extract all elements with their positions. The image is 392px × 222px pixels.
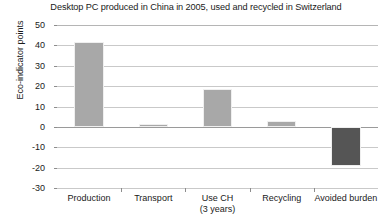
gridline [57, 168, 378, 169]
chart-title: Desktop PC produced in China in 2005, us… [0, 1, 392, 13]
y-tick-label: -10 [5, 142, 45, 152]
y-tick-mark [54, 168, 57, 169]
x-tick-mark [185, 188, 186, 192]
gridline [57, 86, 378, 87]
x-tick-label-text: Transport [134, 193, 172, 203]
y-tick-label: 50 [5, 20, 45, 30]
gridline [57, 25, 378, 26]
bar [139, 124, 169, 126]
y-tick-label: 10 [5, 102, 45, 112]
y-tick-label: 30 [5, 61, 45, 71]
zero-line [57, 127, 378, 128]
y-tick-label: -20 [5, 163, 45, 173]
y-tick-label: 40 [5, 40, 45, 50]
y-tick-mark [54, 147, 57, 148]
y-tick-mark [54, 25, 57, 26]
y-tick-mark [54, 45, 57, 46]
gridline [57, 147, 378, 148]
gridline [57, 66, 378, 67]
bar [74, 42, 104, 127]
x-tick-sublabel-text: (3 years) [173, 204, 263, 215]
y-tick-mark [54, 127, 57, 128]
bar [203, 89, 233, 127]
x-tick-label-text: Use CH [202, 193, 234, 203]
y-tick-label: 20 [5, 81, 45, 91]
x-tick-mark [121, 188, 122, 192]
y-tick-mark [54, 107, 57, 108]
y-tick-label: -30 [5, 183, 45, 193]
gridline [57, 45, 378, 46]
x-tick-mark [250, 188, 251, 192]
bar [267, 121, 297, 127]
y-tick-mark [54, 66, 57, 67]
y-tick-label: 0 [5, 122, 45, 132]
y-tick-mark [54, 86, 57, 87]
x-tick-label-text: Production [68, 193, 111, 203]
x-tick-label-text: Recycling [262, 193, 301, 203]
x-tick-mark [314, 188, 315, 192]
x-axis: ProductionTransportUse CH(3 years)Recycl… [57, 188, 378, 222]
x-tick-label: Avoided burden [301, 193, 391, 204]
x-tick-label-text: Avoided burden [314, 193, 377, 203]
chart-figure: Desktop PC produced in China in 2005, us… [0, 0, 392, 222]
bar [331, 127, 361, 166]
plot-area: 50403020100-10-20-30 [57, 25, 378, 188]
